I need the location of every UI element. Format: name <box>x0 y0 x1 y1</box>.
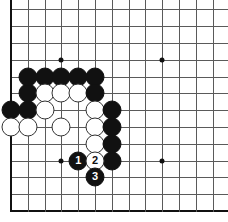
board-line-vertical <box>162 0 163 212</box>
stone-white <box>35 101 54 120</box>
hoshi-star-point <box>59 158 64 163</box>
hoshi-star-point <box>160 158 165 163</box>
hoshi-star-point <box>160 57 165 62</box>
stone-white <box>52 118 71 137</box>
board-line-vertical <box>129 0 130 212</box>
board-line-vertical <box>196 0 197 212</box>
board-line-vertical <box>78 0 79 212</box>
stone-white <box>18 118 37 137</box>
board-line-vertical <box>179 0 180 212</box>
move-number-label: 2 <box>92 155 98 166</box>
board-line-vertical <box>213 0 214 212</box>
move-stone-3: 3 <box>86 168 105 187</box>
board-line-vertical <box>61 0 62 212</box>
move-number-label: 3 <box>92 171 98 182</box>
board-line-vertical <box>145 0 146 212</box>
stone-black <box>102 151 121 170</box>
hoshi-star-point <box>59 57 64 62</box>
move-number-label: 1 <box>75 155 81 166</box>
go-board: 123 <box>0 0 228 222</box>
